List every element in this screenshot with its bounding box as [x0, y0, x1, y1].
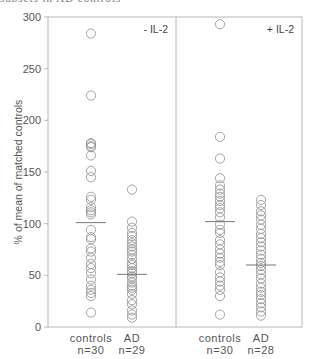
data-point-marker: [127, 296, 136, 305]
y-tick-label: 150: [23, 166, 41, 178]
data-point-marker: [86, 233, 95, 242]
sample-size-label: n=28: [248, 344, 275, 356]
y-tick-label: 50: [29, 269, 41, 281]
panel-label: + IL-2: [267, 23, 294, 35]
y-tick-label: 100: [23, 218, 41, 230]
y-tick-label: 0: [35, 321, 41, 333]
data-point-marker: [215, 208, 224, 217]
data-point-marker: [215, 20, 224, 29]
y-tick-label: 300: [23, 11, 41, 23]
data-point-marker: [86, 29, 95, 38]
data-point-marker: [127, 285, 136, 294]
data-point-marker: [256, 220, 265, 229]
data-point-marker: [86, 259, 95, 268]
group-ad: ADn=29: [117, 185, 147, 356]
data-point-marker: [256, 195, 265, 204]
scatter-chart: 050100150200250300 - IL-2controlsn=30ADn…: [0, 0, 318, 359]
data-point-marker: [215, 291, 224, 300]
category-label: AD: [253, 332, 269, 344]
data-point-marker: [127, 185, 136, 194]
category-label: AD: [124, 332, 140, 344]
axes: 050100150200250300: [23, 11, 302, 333]
data-point-marker: [215, 196, 224, 205]
data-point-marker: [86, 210, 95, 219]
data-point-marker: [127, 274, 136, 283]
data-point-marker: [215, 310, 224, 319]
group-controls: controlsn=30: [199, 20, 242, 356]
sample-size-label: n=29: [119, 344, 146, 356]
data-point-marker: [86, 208, 95, 217]
data-point-marker: [86, 235, 95, 244]
sample-size-label: n=30: [78, 344, 105, 356]
sample-size-label: n=30: [207, 344, 234, 356]
panel-without-il2: - IL-2controlsn=30ADn=29: [70, 23, 168, 356]
category-label: controls: [199, 332, 242, 344]
data-point-marker: [215, 213, 224, 222]
data-point-marker: [215, 174, 224, 183]
data-point-marker: [215, 185, 224, 194]
group-ad: ADn=28: [246, 195, 276, 356]
data-point-marker: [86, 173, 95, 182]
y-tick-label: 250: [23, 63, 41, 75]
y-axis-label: % of mean of matched controls: [12, 100, 24, 245]
panel-label: - IL-2: [143, 23, 168, 35]
data-point-marker: [86, 225, 95, 234]
data-point-marker: [256, 224, 265, 233]
data-point-marker: [256, 211, 265, 220]
data-point-marker: [86, 281, 95, 290]
data-point-marker: [215, 132, 224, 141]
data-point-marker: [86, 91, 95, 100]
y-tick-label: 200: [23, 114, 41, 126]
data-point-marker: [86, 308, 95, 317]
data-point-marker: [256, 283, 265, 292]
data-point-marker: [127, 306, 136, 315]
panels: - IL-2controlsn=30ADn=29+ IL-2controlsn=…: [70, 20, 294, 356]
data-point-marker: [215, 240, 224, 249]
panel-with-il2: + IL-2controlsn=30ADn=28: [199, 20, 294, 356]
category-label: controls: [70, 332, 113, 344]
group-controls: controlsn=30: [70, 29, 113, 356]
data-point-marker: [86, 264, 95, 273]
data-point-marker: [215, 236, 224, 245]
data-point-marker: [215, 268, 224, 277]
data-point-marker: [215, 154, 224, 163]
